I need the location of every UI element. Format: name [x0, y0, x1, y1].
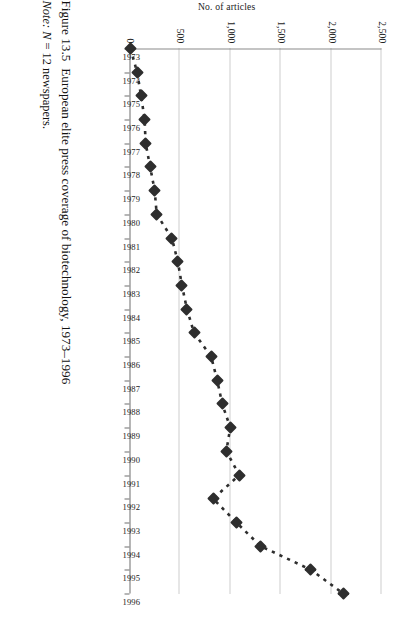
- category-tick-label: 1977: [122, 146, 140, 156]
- value-gridline: [178, 48, 179, 593]
- data-point-marker: [139, 136, 152, 149]
- value-tick-label: 1,000: [225, 21, 235, 43]
- category-tick: [124, 95, 129, 96]
- category-tick: [124, 285, 129, 286]
- category-tick-label: 1980: [122, 217, 140, 227]
- value-tick-label: 2,500: [376, 21, 386, 43]
- data-point-marker: [229, 516, 242, 529]
- category-tick: [124, 451, 129, 452]
- category-axis-line: [129, 48, 381, 49]
- category-tick-label: 1992: [122, 501, 140, 511]
- data-point-marker: [150, 207, 163, 220]
- caption-block: Figure 13.5European elite press coverage…: [36, 0, 75, 623]
- category-tick-label: 1978: [122, 170, 140, 180]
- figure-caption-text: European elite press coverage of biotech…: [58, 68, 73, 384]
- data-point-marker: [143, 160, 156, 173]
- value-gridline: [279, 48, 280, 593]
- data-point-marker: [206, 492, 219, 505]
- category-tick-label: 1996: [122, 596, 140, 606]
- category-tick: [124, 356, 129, 357]
- rotated-figure-container: 2,5002,0001,5001,00050001973197419751976…: [0, 0, 411, 623]
- data-point-marker: [175, 279, 188, 292]
- category-tick: [124, 143, 129, 144]
- category-tick-label: 1989: [122, 430, 140, 440]
- category-tick-label: 1984: [122, 312, 140, 322]
- category-tick-label: 1975: [122, 99, 140, 109]
- value-tick-label: 500: [174, 28, 184, 43]
- data-point-marker: [254, 539, 267, 552]
- category-tick: [124, 309, 129, 310]
- category-tick: [124, 593, 129, 594]
- value-tick-label: 2,000: [326, 21, 336, 43]
- category-tick-label: 1982: [122, 264, 140, 274]
- category-tick: [124, 166, 129, 167]
- data-point-marker: [223, 421, 236, 434]
- data-point-marker: [171, 255, 184, 268]
- category-tick-label: 1979: [122, 193, 140, 203]
- category-tick: [124, 332, 129, 333]
- series-line: [129, 48, 381, 593]
- data-point-marker: [233, 468, 246, 481]
- value-gridline: [229, 48, 230, 593]
- category-tick: [124, 569, 129, 570]
- note-text: = 12 newspapers.: [39, 42, 53, 128]
- figure-number: Figure 13.5: [58, 0, 73, 61]
- category-tick-label: 1981: [122, 241, 140, 251]
- category-tick: [124, 261, 129, 262]
- plot-wrapper: 2,5002,0001,5001,00050001973197419751976…: [81, 0, 411, 623]
- note-n-symbol: N: [39, 31, 53, 39]
- data-point-marker: [148, 184, 161, 197]
- category-tick: [124, 498, 129, 499]
- category-tick-label: 1993: [122, 525, 140, 535]
- category-tick-label: 1983: [122, 288, 140, 298]
- data-point-marker: [304, 563, 317, 576]
- data-point-marker: [336, 587, 349, 600]
- plot-area: 2,5002,0001,5001,00050001973197419751976…: [129, 48, 381, 593]
- category-tick: [124, 72, 129, 73]
- data-point-marker: [180, 302, 193, 315]
- value-gridline: [330, 48, 331, 593]
- category-tick: [124, 427, 129, 428]
- category-tick: [124, 214, 129, 215]
- category-tick: [124, 403, 129, 404]
- category-tick: [124, 190, 129, 191]
- category-tick: [124, 475, 129, 476]
- value-gridline: [380, 48, 381, 593]
- data-point-marker: [165, 231, 178, 244]
- note-label: Note:: [39, 0, 53, 28]
- category-tick-label: 1995: [122, 572, 140, 582]
- figure-caption: Figure 13.5European elite press coverage…: [55, 0, 75, 623]
- category-tick-label: 1985: [122, 336, 140, 346]
- data-point-marker: [210, 373, 223, 386]
- category-tick: [124, 380, 129, 381]
- figure-note: Note: N = 12 newspapers.: [36, 0, 55, 623]
- data-point-marker: [204, 350, 217, 363]
- figure-page: 2,5002,0001,5001,00050001973197419751976…: [0, 0, 411, 623]
- category-tick-label: 1988: [122, 407, 140, 417]
- category-tick-label: 1986: [122, 359, 140, 369]
- category-tick-label: 1987: [122, 383, 140, 393]
- data-point-marker: [215, 397, 228, 410]
- category-tick: [124, 119, 129, 120]
- category-tick: [124, 522, 129, 523]
- category-tick-label: 1990: [122, 454, 140, 464]
- data-point-marker: [187, 326, 200, 339]
- category-tick-label: 1976: [122, 122, 140, 132]
- value-tick-label: 1,500: [275, 21, 285, 43]
- category-tick: [124, 546, 129, 547]
- value-axis-title: No. of articles: [197, 0, 255, 11]
- category-tick-label: 1994: [122, 549, 140, 559]
- category-tick-label: 1991: [122, 478, 140, 488]
- category-tick: [124, 238, 129, 239]
